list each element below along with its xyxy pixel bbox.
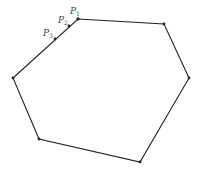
vertex-dot bbox=[188, 77, 191, 80]
labeled-points: P1 P2 P3 bbox=[42, 6, 80, 40]
vertex-dot bbox=[139, 161, 142, 164]
point-p1-dot bbox=[77, 18, 80, 21]
point-p3-label: P3 bbox=[42, 28, 53, 39]
polygon-diagram: P1 P2 P3 bbox=[0, 0, 203, 172]
vertex-dot bbox=[38, 138, 41, 141]
vertex-dot bbox=[163, 23, 166, 26]
point-p1-label: P1 bbox=[69, 6, 80, 17]
vertex-dot bbox=[12, 77, 15, 80]
point-p3-dot bbox=[54, 38, 57, 41]
hexagon-outline bbox=[13, 19, 189, 162]
point-p2-dot bbox=[68, 25, 71, 28]
vertex-dots bbox=[12, 18, 191, 164]
point-p2-label: P2 bbox=[57, 15, 68, 26]
